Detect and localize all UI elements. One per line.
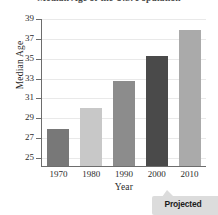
y-tick-label: 27 bbox=[16, 132, 34, 142]
gridline bbox=[42, 19, 206, 20]
projected-label: Projected bbox=[152, 199, 214, 209]
y-tick-mark bbox=[36, 158, 42, 159]
y-tick-mark bbox=[36, 39, 42, 40]
bar-1990 bbox=[113, 81, 135, 166]
bar-1980 bbox=[80, 108, 102, 166]
x-axis-label: Year bbox=[42, 182, 206, 192]
y-tick-mark bbox=[36, 98, 42, 99]
y-tick-mark bbox=[36, 79, 42, 80]
bar-2000 bbox=[146, 56, 168, 166]
y-tick-mark bbox=[36, 118, 42, 119]
x-tick-label-2010: 2010 bbox=[172, 169, 208, 179]
y-tick-label: 37 bbox=[16, 33, 34, 43]
x-tick-label-1970: 1970 bbox=[40, 169, 76, 179]
chart-title: Median Age of the U.S. Population bbox=[0, 0, 218, 3]
y-tick-label: 39 bbox=[16, 13, 34, 23]
y-tick-label: 29 bbox=[16, 112, 34, 122]
y-tick-label: 35 bbox=[16, 53, 34, 63]
bar-1970 bbox=[47, 129, 69, 166]
y-tick-label: 25 bbox=[16, 152, 34, 162]
median-age-bar-chart: Median Age of the U.S. Population Median… bbox=[0, 0, 218, 215]
bar-2010 bbox=[179, 30, 201, 166]
y-tick-mark bbox=[36, 138, 42, 139]
x-tick-label-1990: 1990 bbox=[106, 169, 142, 179]
projected-callout: Projected bbox=[152, 196, 218, 215]
x-tick-label-2000: 2000 bbox=[139, 169, 175, 179]
x-axis-line bbox=[41, 166, 206, 167]
plot-area bbox=[42, 19, 206, 166]
y-tick-label: 33 bbox=[16, 73, 34, 83]
y-tick-label: 31 bbox=[16, 92, 34, 102]
y-tick-mark bbox=[36, 19, 42, 20]
y-tick-mark bbox=[36, 59, 42, 60]
x-tick-label-1980: 1980 bbox=[73, 169, 109, 179]
